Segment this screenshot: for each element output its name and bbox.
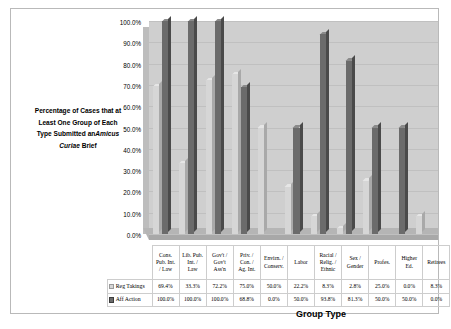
y-axis-tick-label: 70.0% — [123, 82, 141, 89]
table-category-header: Lib. Pub.Int. /Law — [179, 246, 206, 280]
bar-aff-action — [293, 128, 299, 235]
chart-title-line3: Type Submitted an — [37, 130, 96, 137]
y-axis-tick-label: 10.0% — [123, 210, 141, 217]
bar-category-group — [333, 21, 359, 234]
table-cell-value: 22.2% — [287, 280, 314, 293]
table-category-header: Profes. — [369, 246, 396, 280]
table-category-header: Cons.Pub. Int./ Law — [152, 246, 179, 280]
table-cell-value: 25.0% — [369, 280, 396, 293]
bar-category-group — [359, 21, 385, 234]
chart-frame: Percentage of Cases that at Least One Gr… — [10, 8, 439, 314]
y-axis-tick-label: 40.0% — [123, 146, 141, 153]
y-axis-tick-label: 0.0% — [127, 232, 141, 239]
bar-group-container — [149, 21, 438, 234]
table-corner-cell — [108, 246, 153, 280]
bar-category-group — [280, 21, 306, 234]
table-cell-value: 68.8% — [233, 293, 260, 306]
bar-category-group — [202, 21, 228, 234]
table-cell-value: 0.0% — [260, 293, 287, 306]
table-category-header: Retirees — [423, 246, 450, 280]
table-category-header: Envirn. /Conserv. — [260, 246, 287, 280]
y-axis-tick-label: 20.0% — [123, 189, 141, 196]
table-row: Aff Action100.0%100.0%100.0%68.8%0.0%50.… — [108, 293, 450, 306]
chart-title-line2: Least One Group of Each — [38, 119, 117, 126]
y-axis-tick-label: 50.0% — [123, 125, 141, 132]
bar-reg-takings — [285, 187, 291, 234]
bar-aff-action — [188, 21, 194, 234]
bar-reg-takings — [337, 228, 343, 234]
bar-reg-takings — [363, 181, 369, 234]
legend-item-aff-action: Aff Action — [108, 293, 153, 306]
legend-swatch — [109, 284, 114, 289]
table-category-header: Gov't /Gov'tAss'n — [206, 246, 233, 280]
table-category-header: Racial /Relig. /Ethnic — [314, 246, 341, 280]
y-axis-tick-label: 80.0% — [123, 61, 141, 68]
bar-category-group — [307, 21, 333, 234]
plot-area — [143, 21, 438, 246]
table-cell-value: 69.4% — [152, 280, 179, 293]
y-axis: 100.0%90.0%80.0%70.0%60.0%50.0%40.0%30.0… — [107, 21, 143, 235]
y-axis-tick-label: 60.0% — [123, 104, 141, 111]
table-category-header: Labor — [287, 246, 314, 280]
bar-aff-action — [372, 128, 378, 235]
table-cell-value: 8.3% — [423, 280, 450, 293]
y-axis-tick-label: 100.0% — [120, 19, 141, 26]
bar-aff-action — [241, 87, 247, 234]
bar-reg-takings — [153, 86, 159, 234]
table-cell-value: 2.8% — [342, 280, 369, 293]
bar-category-group — [175, 21, 201, 234]
table-row: Reg Takings69.4%33.3%72.2%75.0%50.0%22.2… — [108, 280, 450, 293]
gridline — [149, 234, 438, 235]
table-cell-value: 8.3% — [314, 280, 341, 293]
chart-title-italic2: Curiae — [59, 142, 80, 149]
table-cell-value: 100.0% — [152, 293, 179, 306]
bar-reg-takings — [311, 216, 317, 234]
table-category-header: HigherEd. — [396, 246, 423, 280]
table-cell-value: 100.0% — [206, 293, 233, 306]
chart-title-line4: Brief — [80, 142, 97, 149]
bar-category-group — [254, 21, 280, 234]
bar-category-group — [385, 21, 411, 234]
table-cell-value: 72.2% — [206, 280, 233, 293]
table-cell-value: 0.0% — [423, 293, 450, 306]
table-cell-value: 100.0% — [179, 293, 206, 306]
bar-aff-action — [162, 21, 168, 234]
table-cell-value: 50.0% — [369, 293, 396, 306]
table-cell-value: 75.0% — [233, 280, 260, 293]
legend-item-reg-takings: Reg Takings — [108, 280, 153, 293]
bar-aff-action — [399, 128, 405, 235]
x-axis-title: Group Type — [241, 309, 401, 319]
data-table: Cons.Pub. Int./ LawLib. Pub.Int. /LawGov… — [107, 245, 450, 307]
bar-category-group — [228, 21, 254, 234]
table-cell-value: 50.0% — [396, 293, 423, 306]
bar-aff-action — [320, 34, 326, 234]
table-category-header: Sex /Gender — [342, 246, 369, 280]
y-axis-tick-label: 90.0% — [123, 40, 141, 47]
table-row-categories: Cons.Pub. Int./ LawLib. Pub.Int. /LawGov… — [108, 246, 450, 280]
bar-aff-action — [346, 61, 352, 234]
y-axis-tick-label: 30.0% — [123, 168, 141, 175]
bar-reg-takings — [206, 80, 212, 234]
bar-category-group — [412, 21, 438, 234]
bar-reg-takings — [416, 216, 422, 234]
legend-swatch — [109, 297, 114, 302]
bar-category-group — [149, 21, 175, 234]
table-cell-value: 93.8% — [314, 293, 341, 306]
table-cell-value: 50.0% — [260, 280, 287, 293]
table-cell-value: 81.3% — [342, 293, 369, 306]
table-cell-value: 50.0% — [287, 293, 314, 306]
table-cell-value: 33.3% — [179, 280, 206, 293]
bar-aff-action — [215, 21, 221, 234]
table-category-header: Priv. /Con. /Ag. Int. — [233, 246, 260, 280]
table-cell-value: 0.0% — [396, 280, 423, 293]
bar-reg-takings — [258, 128, 264, 235]
bar-reg-takings — [179, 163, 185, 234]
bar-reg-takings — [232, 74, 238, 234]
